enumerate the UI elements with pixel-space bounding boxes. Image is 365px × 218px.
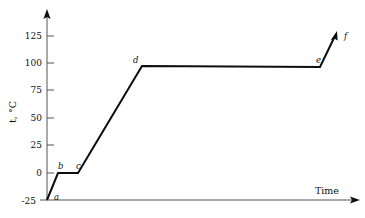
y-tick-label-neg25: -25 <box>22 196 37 206</box>
point-label-f: f <box>343 31 349 41</box>
y-tick-label-75: 75 <box>31 85 43 95</box>
y-tick-label-50: 50 <box>31 113 43 123</box>
x-axis-title: Time <box>315 185 339 196</box>
y-axis-title: t, °C <box>7 101 18 123</box>
axes-group <box>43 9 360 204</box>
heating-curve-figure: 125 100 75 50 25 0 -25 t, °C Time a b c … <box>0 0 365 218</box>
y-tick-label-0: 0 <box>36 168 42 178</box>
chart-canvas: 125 100 75 50 25 0 -25 t, °C Time a b c … <box>0 0 365 218</box>
point-label-c: c <box>76 161 81 171</box>
y-tick-label-25: 25 <box>31 140 43 150</box>
point-label-b: b <box>58 161 63 171</box>
point-label-e: e <box>316 55 321 65</box>
y-tick-labels: 125 100 75 50 25 0 -25 <box>22 31 43 206</box>
heating-curve-line <box>47 38 334 200</box>
y-tick-label-100: 100 <box>25 58 42 68</box>
data-series-heating-curve <box>47 31 338 200</box>
curve-point-labels: a b c d e f <box>54 31 349 202</box>
point-label-d: d <box>133 55 139 65</box>
point-label-a: a <box>54 192 59 202</box>
y-tick-label-125: 125 <box>25 31 42 41</box>
